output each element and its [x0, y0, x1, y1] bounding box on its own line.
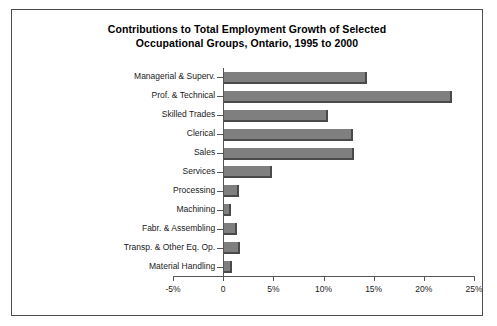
bar: [224, 72, 366, 84]
x-axis-tick: [424, 276, 425, 281]
y-axis-tick: [217, 267, 223, 268]
x-axis-tick: [173, 276, 174, 281]
chart-figure: Contributions to Total Employment Growth…: [11, 9, 483, 316]
y-axis-tick: [217, 172, 223, 173]
bar: [224, 204, 231, 216]
category-label: Sales: [65, 147, 215, 157]
category-label: Material Handling: [65, 261, 215, 271]
y-axis-tick: [217, 210, 223, 211]
bar-row: Services: [173, 163, 474, 182]
x-axis-tick: [374, 276, 375, 281]
x-axis-tick: [273, 276, 274, 281]
bar-row: Machining: [173, 200, 474, 219]
category-label: Fabr. & Assembling: [65, 223, 215, 233]
chart-title-line-2: Occupational Groups, Ontario, 1995 to 20…: [12, 36, 482, 50]
bar: [224, 261, 232, 273]
bar: [224, 185, 239, 197]
bar: [224, 110, 328, 122]
y-axis-tick: [217, 229, 223, 230]
bar: [224, 148, 353, 160]
x-axis-tick: [223, 276, 224, 281]
category-label: Clerical: [65, 128, 215, 138]
bar-row: Transp. & Other Eq. Op.: [173, 238, 474, 257]
category-label: Processing: [65, 185, 215, 195]
y-axis-tick: [217, 153, 223, 154]
bar-row: Processing: [173, 181, 474, 200]
bar-row: Sales: [173, 144, 474, 163]
bar: [224, 166, 272, 178]
x-axis-tick-label: 25%: [444, 284, 497, 294]
bar-row: Skilled Trades: [173, 106, 474, 125]
y-axis-tick: [217, 96, 223, 97]
y-axis-tick: [217, 115, 223, 116]
y-axis-tick: [217, 77, 223, 78]
bar: [224, 129, 352, 141]
y-axis-tick: [217, 191, 223, 192]
category-label: Transp. & Other Eq. Op.: [65, 242, 215, 252]
bar-row: Clerical: [173, 125, 474, 144]
y-axis-tick: [217, 134, 223, 135]
bar: [224, 242, 240, 254]
bar: [224, 223, 237, 235]
bar-row: Fabr. & Assembling: [173, 219, 474, 238]
category-label: Machining: [65, 204, 215, 214]
category-label: Services: [65, 166, 215, 176]
chart-title: Contributions to Total Employment Growth…: [12, 22, 482, 50]
category-label: Skilled Trades: [65, 109, 215, 119]
category-label: Prof. & Technical: [65, 90, 215, 100]
category-label: Managerial & Superv.: [65, 71, 215, 81]
bar-row: Material Handling: [173, 257, 474, 276]
y-axis-tick: [217, 248, 223, 249]
bar: [224, 91, 452, 103]
bar-row: Managerial & Superv.: [173, 68, 474, 87]
chart-title-line-1: Contributions to Total Employment Growth…: [12, 22, 482, 36]
x-axis-tick: [474, 276, 475, 281]
x-axis-tick: [324, 276, 325, 281]
bar-row: Prof. & Technical: [173, 87, 474, 106]
